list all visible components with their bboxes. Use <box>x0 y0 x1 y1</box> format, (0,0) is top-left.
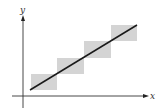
trend-line <box>30 25 137 90</box>
x-axis-arrow-icon <box>143 94 149 98</box>
x-axis-label: x <box>150 91 155 101</box>
y-axis-arrow-icon <box>21 15 25 21</box>
staircase-diagram: y x <box>0 0 159 111</box>
y-axis-label: y <box>19 5 26 15</box>
